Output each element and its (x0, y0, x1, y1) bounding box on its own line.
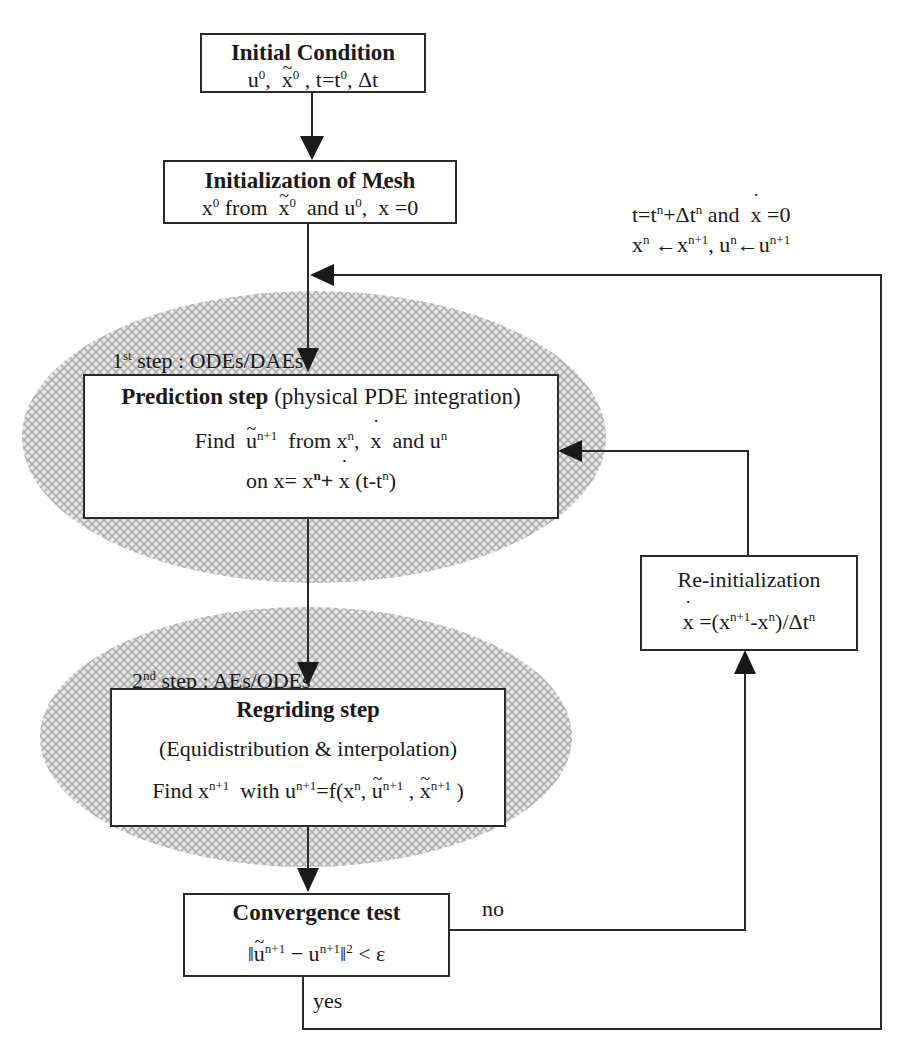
regriding-line1: (Equidistribution & interpolation) (112, 736, 504, 762)
node-regriding: Regriding step (Equidistribution & inter… (110, 688, 506, 827)
node-reinit: Re-initialization x =(xn+1-xn)/Δtn (640, 555, 858, 651)
node-initial-condition: Initial Condition u0, x0 , t=t0, Δt (200, 33, 426, 93)
prediction-title-rest: (physical PDE integration) (274, 384, 521, 409)
prediction-line1: Find un+1 from xn, x and un (85, 428, 557, 454)
prediction-title: Prediction step (physical PDE integratio… (85, 384, 557, 410)
prediction-line2: on x= xn+ x (t-tn) (85, 468, 557, 494)
node-prediction: Prediction step (physical PDE integratio… (83, 374, 559, 519)
initial-condition-values: u0, x0 , t=t0, Δt (202, 67, 424, 93)
regriding-title: Regriding step (112, 696, 504, 724)
loop-label-line1: t=tn+Δtn and x =0 (632, 202, 791, 228)
edge-label-no: no (482, 896, 504, 922)
edge-reinit-to-prediction (580, 451, 748, 555)
regriding-line2: Find xn+1 with un+1=f(xn, un+1 , xn+1 ) (112, 778, 504, 804)
reinit-formula: x =(xn+1-xn)/Δtn (642, 609, 856, 635)
step1-label: 1st step : ODEs/DAEs (112, 348, 303, 374)
edge-label-yes: yes (313, 988, 342, 1014)
node-init-mesh: Initialization of Mesh x0 from x0 and u0… (163, 160, 457, 224)
init-mesh-title: Initialization of Mesh (165, 167, 455, 195)
init-mesh-values: x0 from x0 and u0, x =0 (165, 195, 455, 221)
reinit-title: Re-initialization (642, 567, 856, 593)
loop-label-line2: xn ←xn+1, un←un+1 (632, 232, 790, 258)
node-convergence: Convergence test ‖un+1 − un+1‖2 < ε (183, 893, 450, 977)
convergence-criterion: ‖un+1 − un+1‖2 < ε (185, 941, 448, 967)
initial-condition-title: Initial Condition (202, 39, 424, 67)
prediction-title-bold: Prediction step (121, 384, 268, 409)
convergence-title: Convergence test (185, 899, 448, 927)
